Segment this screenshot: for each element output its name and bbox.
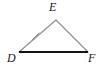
tick-mark-DE-icon bbox=[32, 33, 39, 40]
vertex-label-D: D bbox=[7, 52, 16, 64]
segment-DE bbox=[19, 20, 56, 52]
vertex-label-F: F bbox=[88, 52, 95, 64]
tick-mark-EF-icon bbox=[69, 33, 76, 40]
geometry-figure-triangle-DEF: E D F bbox=[0, 0, 107, 69]
vertex-label-E: E bbox=[49, 1, 56, 13]
